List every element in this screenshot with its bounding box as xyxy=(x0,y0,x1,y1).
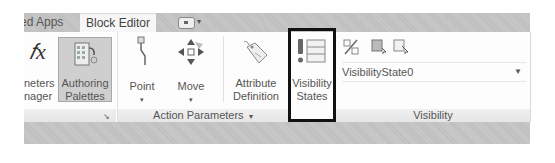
point-parameter-icon xyxy=(136,36,148,70)
point-button[interactable]: Point ▾ xyxy=(122,80,162,106)
move-label: Move xyxy=(170,80,212,93)
chevron-down-icon: ▼ xyxy=(514,63,522,81)
panel-launcher-icon[interactable]: ↘ xyxy=(103,112,116,121)
authoring-label-2: Palettes xyxy=(58,90,112,103)
panel-expand-arrow: ▾ xyxy=(247,112,253,121)
attribute-definition-button[interactable]: Attribute Definition xyxy=(226,77,286,103)
point-dropdown-arrow: ▾ xyxy=(122,93,162,106)
parameters-manager-label-1: neters xyxy=(24,77,58,90)
point-label: Point xyxy=(122,80,162,93)
window-switch-icon[interactable] xyxy=(178,17,195,29)
visibility-title: Visibility xyxy=(413,109,453,121)
parameters-manager-label-2: nager xyxy=(24,90,58,103)
tab-block-editor[interactable]: Block Editor xyxy=(80,13,156,33)
authoring-palettes-icon xyxy=(73,42,99,72)
action-separator xyxy=(223,36,224,102)
move-dropdown-arrow: ▾ xyxy=(170,93,212,106)
attribute-tag-icon xyxy=(241,39,269,71)
action-parameters-panel-footer[interactable]: Action Parameters ▾ xyxy=(118,109,288,122)
qat-dropdown-arrow[interactable]: ▾ xyxy=(197,17,201,26)
tab-featured-apps[interactable]: red Apps xyxy=(24,13,74,32)
attribute-label-2: Definition xyxy=(226,90,286,103)
visibility-mode-icon[interactable] xyxy=(371,39,387,59)
parameters-manager-button[interactable]: neters nager xyxy=(24,77,58,103)
move-button[interactable]: Move ▾ xyxy=(170,80,212,106)
visibility-select-icon[interactable] xyxy=(393,39,409,59)
manage-panel-footer: ↘ xyxy=(24,109,116,122)
visibility-state-value: VisibilityState0 xyxy=(342,66,413,78)
action-parameters-title: Action Parameters xyxy=(153,109,243,121)
authoring-label-1: Authoring xyxy=(58,77,112,90)
ribbon-bottom-strip xyxy=(24,122,530,144)
move-action-icon xyxy=(177,38,205,70)
attribute-label-1: Attribute xyxy=(226,77,286,90)
visibility-panel-footer: Visibility xyxy=(336,109,530,122)
make-visible-invisible-icon[interactable] xyxy=(343,39,359,59)
visibility-states-highlight xyxy=(288,28,336,122)
fx-icon: 𝑓x xyxy=(29,39,46,65)
visibility-state-dropdown[interactable]: VisibilityState0 ▼ xyxy=(342,62,526,82)
authoring-palettes-label: Authoring Palettes xyxy=(58,77,112,103)
